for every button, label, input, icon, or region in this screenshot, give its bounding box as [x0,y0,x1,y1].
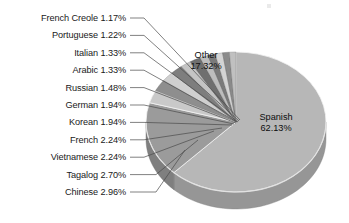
pie-label-korean: Korean 1.94% [0,117,126,127]
pie-label-french: French Creole 1.17% [0,13,126,23]
pie-label-italian: Italian 1.33% [0,48,126,58]
pie-label-german: German 1.94% [0,100,126,110]
pie-label-russian: Russian 1.48% [0,83,126,93]
pie-label-tagalog: Tagalog 2.70% [0,170,126,180]
slice-label-name: Other [178,50,234,61]
pie-label-portuguese: Portuguese 1.22% [0,30,126,40]
pie-label-french: French 2.24% [0,135,126,145]
pie-label-arabic: Arabic 1.33% [0,65,126,75]
slice-label-name: Spanish [245,112,307,123]
slice-label-other: Other17.32% [178,50,234,72]
slice-label-spanish: Spanish62.13% [245,112,307,134]
pie-label-chinese: Chinese 2.96% [0,187,126,197]
pie-label-vietnamese: Vietnamese 2.24% [0,152,126,162]
slice-label-value: 17.32% [178,61,234,72]
pie-chart: Other17.32%Spanish62.13% French Creole 1… [0,0,349,223]
slice-label-value: 62.13% [245,123,307,134]
scan-artifact-speck [267,4,271,8]
